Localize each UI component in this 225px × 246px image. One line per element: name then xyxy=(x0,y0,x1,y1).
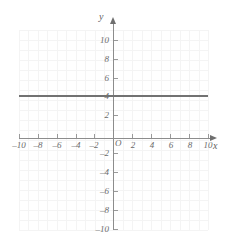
y-axis-label: y xyxy=(99,12,103,22)
y-tick-mark xyxy=(114,78,118,79)
x-tick-label: 10 xyxy=(198,141,218,150)
x-tick-mark xyxy=(151,134,152,138)
y-tick-label: 2 xyxy=(91,111,109,120)
y-tick-mark xyxy=(114,59,118,60)
y-tick-mark xyxy=(114,115,118,116)
x-tick-label: 8 xyxy=(180,141,200,150)
y-tick-mark xyxy=(114,229,118,230)
x-tick-label: 2 xyxy=(123,141,143,150)
x-tick-mark xyxy=(132,134,133,138)
coordinate-plane-figure: y x O –10 –8 –6 –4 –2 2 4 6 8 10 10 8 6 … xyxy=(0,0,225,246)
gridline-horizontal xyxy=(19,230,208,231)
y-tick-label: –4 xyxy=(91,168,109,177)
origin-label: O xyxy=(115,139,122,148)
x-tick-mark xyxy=(208,134,209,138)
y-axis-arrow-icon xyxy=(110,17,116,24)
y-tick-label: –6 xyxy=(91,187,109,196)
y-tick-mark xyxy=(114,191,118,192)
y-tick-mark xyxy=(114,172,118,173)
x-tick-label: 6 xyxy=(161,141,181,150)
y-tick-mark xyxy=(114,40,118,41)
y-tick-label: –10 xyxy=(91,225,109,234)
x-tick-mark xyxy=(170,134,171,138)
y-tick-label: 6 xyxy=(91,74,109,83)
x-tick-label: –8 xyxy=(28,141,48,150)
y-tick-label: –2 xyxy=(91,149,109,158)
y-axis xyxy=(113,24,114,230)
y-tick-label: –8 xyxy=(91,206,109,215)
x-tick-label: –10 xyxy=(9,141,29,150)
x-tick-mark xyxy=(94,134,95,138)
data-line-y-equals-4 xyxy=(19,95,208,97)
x-tick-label: –6 xyxy=(47,141,67,150)
x-tick-label: –4 xyxy=(66,141,86,150)
x-tick-mark xyxy=(57,134,58,138)
y-tick-mark xyxy=(114,210,118,211)
x-tick-mark xyxy=(189,134,190,138)
y-tick-label: 10 xyxy=(91,36,109,45)
gridline-vertical xyxy=(208,30,209,230)
x-tick-mark xyxy=(19,134,20,138)
x-tick-label: 4 xyxy=(142,141,162,150)
y-tick-mark xyxy=(114,153,118,154)
x-tick-mark xyxy=(76,134,77,138)
y-tick-label: 8 xyxy=(91,55,109,64)
x-tick-mark xyxy=(38,134,39,138)
